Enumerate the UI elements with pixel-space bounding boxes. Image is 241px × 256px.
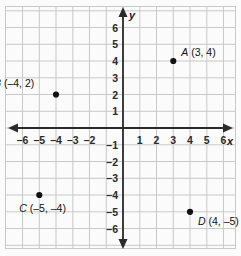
x-tick-label-1: 1 (131, 135, 149, 146)
y-tick-label-6: 6 (97, 23, 118, 34)
data-point-b (53, 91, 59, 97)
point-label-name: D (198, 215, 206, 227)
point-label-coords: (–4, 2) (1, 77, 34, 89)
data-point-c (36, 192, 42, 198)
y-tick-label-2: 2 (97, 90, 118, 101)
point-label-coords: (3, 4) (188, 46, 215, 58)
x-tick-label-4: 4 (181, 135, 199, 146)
y-tick-label-neg4: –4 (97, 190, 118, 201)
x-tick-label-neg5: –5 (30, 135, 48, 146)
data-point-d (187, 209, 193, 215)
y-tick-label-5: 5 (97, 39, 118, 50)
x-tick-label-2: 2 (148, 135, 166, 146)
point-label-name: C (19, 202, 27, 214)
y-tick-label-4: 4 (97, 56, 118, 67)
y-tick-label-neg3: –3 (97, 173, 118, 184)
x-tick-label-neg4: –4 (47, 135, 65, 146)
point-label-c: C (–5, –4) (19, 203, 66, 214)
x-tick-label-5: 5 (198, 135, 216, 146)
y-tick-label-1: 1 (97, 106, 118, 117)
y-tick-label-neg6: –6 (97, 224, 118, 235)
y-tick-label-3: 3 (97, 73, 118, 84)
point-label-coords: (4, –5) (206, 215, 239, 227)
coordinate-plane-figure: –6–5–4–3–2123456654321–1–2–3–4–5–6yxA (3… (0, 0, 241, 256)
y-axis-name: y (129, 10, 135, 21)
x-tick-label-neg6: –6 (14, 135, 32, 146)
y-tick-label-neg5: –5 (97, 207, 118, 218)
point-label-coords: (–5, –4) (27, 202, 66, 214)
x-axis-name: x (227, 136, 233, 147)
x-tick-label-neg3: –3 (64, 135, 82, 146)
y-tick-label-neg2: –2 (97, 157, 118, 168)
point-label-b: B (–4, 2) (0, 78, 34, 89)
x-tick-label-neg2: –2 (81, 135, 99, 146)
point-label-a: A (3, 4) (181, 47, 215, 58)
x-tick-label-3: 3 (164, 135, 182, 146)
data-point-a (170, 58, 176, 64)
point-label-d: D (4, –5) (198, 216, 239, 227)
y-tick-label-neg1: –1 (97, 140, 118, 151)
